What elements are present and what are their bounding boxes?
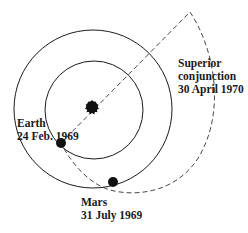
orbit-diagram: Earth 24 Feb. 1969 Superior conjunction … [0,0,248,233]
earth-label: Earth 24 Feb. 1969 [17,117,79,143]
mars-label-date: 31 July 1969 [81,209,142,222]
mars-dot [108,177,118,187]
conjunction-label: Superior conjunction 30 April 1970 [178,57,244,96]
mars-label: Mars 31 July 1969 [81,196,142,222]
mars-label-name: Mars [81,196,142,209]
conjunction-label-line1: Superior [178,57,244,70]
earth-label-name: Earth [17,117,79,130]
earth-label-date: 24 Feb. 1969 [17,130,79,143]
trajectory-arc [61,12,214,193]
conjunction-label-line2: conjunction [178,70,244,83]
sun-icon [85,100,100,115]
conjunction-label-date: 30 April 1970 [178,83,244,96]
